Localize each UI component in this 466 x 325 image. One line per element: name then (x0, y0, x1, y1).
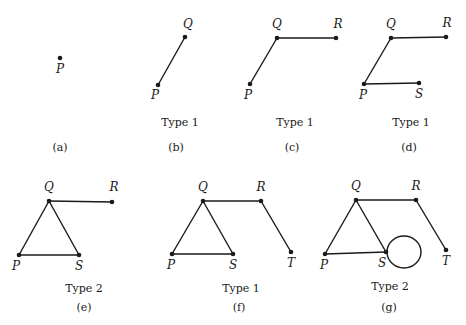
vertex-t (289, 250, 294, 255)
vertex-label-p: P (11, 259, 21, 273)
vertex-p (58, 56, 63, 61)
vertex-r (110, 200, 115, 205)
vertex-label-q: Q (183, 17, 193, 31)
vertex-label-q: Q (351, 179, 361, 193)
type-label: Type 1 (161, 116, 199, 129)
panel-e: PQRS Type 2 (e) (11, 180, 119, 314)
graph-construction-diagram: P (a) PQ Type 1 (b) PQR Type 1 (c) PQRS … (0, 0, 466, 325)
vertex-label-r: R (332, 17, 342, 31)
panel-c: PQR Type 1 (c) (243, 17, 343, 154)
vertex-label-r: R (441, 16, 451, 30)
edge-q-s (203, 201, 233, 254)
type-label: Type 2 (371, 280, 409, 293)
vertex-q (183, 35, 188, 40)
vertex-label-s: S (229, 258, 237, 272)
vertex-label-q: Q (386, 17, 396, 31)
vertex-label-r: R (255, 180, 265, 194)
vertex-label-t: T (287, 256, 296, 270)
vertex-r (444, 35, 449, 40)
vertex-label-p: P (55, 62, 65, 76)
vertex-label-p: P (319, 258, 329, 272)
type-label: Type 1 (276, 116, 314, 129)
vertex-q (354, 198, 359, 203)
vertex-s (417, 81, 422, 86)
edge-r-t (261, 201, 291, 252)
vertex-s (77, 253, 82, 258)
edge-q-s (356, 200, 386, 252)
panel-caption: (c) (285, 141, 300, 154)
edge-p-q (325, 200, 356, 254)
edge-p-q (19, 201, 49, 255)
panel-caption: (f) (233, 301, 246, 314)
vertex-t (444, 248, 449, 253)
vertex-label-r: R (108, 180, 118, 194)
vertex-label-t: T (442, 254, 451, 268)
vertex-label-s: S (378, 256, 386, 270)
vertex-label-p: P (150, 88, 160, 102)
vertex-label-q: Q (198, 180, 208, 194)
vertex-label-q: Q (44, 180, 54, 194)
edge-p-q (172, 201, 203, 254)
vertex-p (248, 82, 253, 87)
panel-g: PQRST Type 2 (g) (319, 179, 451, 314)
vertex-p (170, 252, 175, 257)
panel-caption: (e) (76, 301, 91, 314)
type-label: Type 1 (222, 282, 260, 295)
vertex-r (259, 199, 264, 204)
panel-b: PQ Type 1 (b) (150, 17, 199, 154)
vertex-s (384, 250, 389, 255)
vertex-q (389, 36, 394, 41)
edge-p-s (364, 83, 419, 84)
vertex-label-q: Q (272, 17, 282, 31)
edge-q-s (49, 201, 79, 255)
vertex-label-r: R (410, 179, 420, 193)
vertex-label-p: P (358, 88, 368, 102)
edge-r-t (416, 200, 446, 250)
vertex-label-s: S (415, 87, 423, 101)
vertex-q (47, 199, 52, 204)
edge-p-q (158, 37, 185, 85)
panel-caption: (d) (401, 141, 417, 154)
vertex-s (231, 252, 236, 257)
panel-f: PQRST Type 1 (f) (166, 180, 296, 314)
panel-a: P (a) (52, 56, 67, 154)
vertex-p (323, 252, 328, 257)
vertex-label-s: S (75, 259, 83, 273)
vertex-p (362, 82, 367, 87)
vertex-q (275, 36, 280, 41)
type-label: Type 1 (392, 116, 430, 129)
loop-s (387, 236, 421, 268)
vertex-label-p: P (243, 88, 253, 102)
edge-p-s (325, 252, 386, 254)
edge-q-r (49, 201, 112, 202)
vertex-r (414, 198, 419, 203)
panel-d: PQRS Type 1 (d) (358, 16, 452, 154)
vertex-label-p: P (166, 258, 176, 272)
panel-caption: (g) (381, 301, 397, 314)
vertex-r (334, 36, 339, 41)
vertex-p (17, 253, 22, 258)
panel-caption: (b) (168, 141, 184, 154)
type-label: Type 2 (65, 282, 103, 295)
edge-p-q (364, 38, 391, 84)
vertex-q (201, 199, 206, 204)
edge-q-r (391, 37, 446, 38)
vertex-p (156, 83, 161, 88)
edge-p-q (250, 38, 277, 84)
panel-caption: (a) (52, 141, 67, 154)
